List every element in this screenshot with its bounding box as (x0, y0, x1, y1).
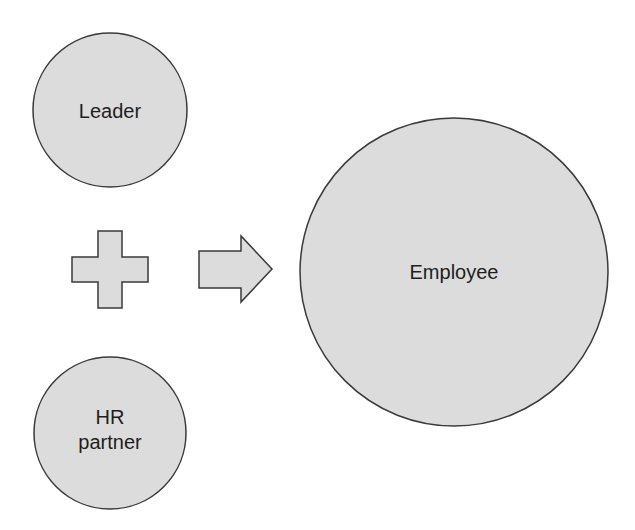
leader-node: Leader (33, 33, 187, 187)
arrow-right-icon (199, 236, 272, 302)
hr-partner-node: HR partner (34, 357, 186, 509)
diagram-canvas: Leader HR partner Employee (0, 0, 635, 530)
plus-icon (72, 231, 148, 308)
leader-label: Leader (79, 100, 142, 122)
employee-node: Employee (300, 118, 608, 426)
hr-label-line1: HR (96, 406, 125, 428)
employee-label: Employee (410, 261, 499, 283)
hr-label-line2: partner (78, 431, 142, 453)
